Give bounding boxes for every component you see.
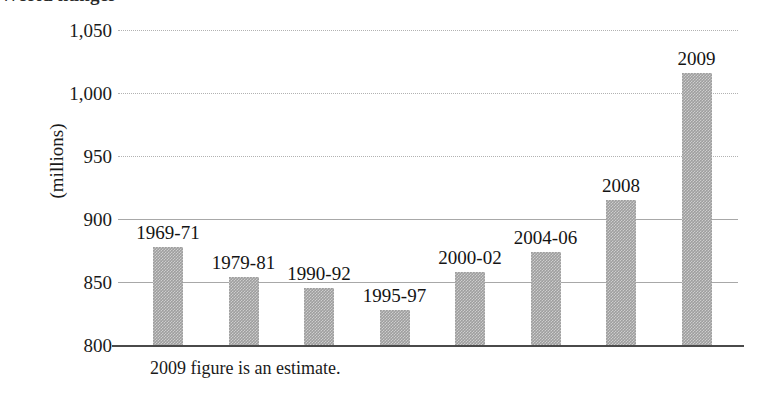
bar <box>229 277 259 345</box>
bar-label: 1990-92 <box>271 264 367 284</box>
bar <box>455 272 485 345</box>
bar-label: 2000-02 <box>422 248 518 268</box>
x-axis-baseline <box>112 345 744 347</box>
bar-chart-figure: World hunger 1,0501,000950900850800 (mil… <box>0 0 758 412</box>
plot-area: 1969-711979-811990-921995-972000-022004-… <box>118 24 738 351</box>
bar <box>153 247 183 345</box>
y-axis-title: (millions) <box>46 86 68 236</box>
bar <box>606 200 636 345</box>
bar-label: 2004-06 <box>498 228 594 248</box>
bar-label: 1995-97 <box>347 286 443 306</box>
bar <box>531 252 561 345</box>
figure-title-clipped: World hunger <box>0 0 758 6</box>
gridline-1050 <box>118 30 738 31</box>
y-tick-label-800: 800 <box>36 336 112 355</box>
bar <box>380 310 410 345</box>
bar <box>682 73 712 345</box>
bar-label: 2008 <box>573 176 669 196</box>
y-tick-label-1050: 1,050 <box>36 21 112 40</box>
chart-footnote: 2009 figure is an estimate. <box>150 358 340 379</box>
gridline-1000 <box>118 93 738 94</box>
bar-label: 2009 <box>649 49 745 69</box>
y-tick-label-850: 850 <box>36 273 112 292</box>
gridline-900 <box>118 219 738 220</box>
gridline-950 <box>118 156 738 157</box>
bar <box>304 288 334 345</box>
gridline-850 <box>118 282 738 283</box>
bar-label: 1969-71 <box>120 223 216 243</box>
